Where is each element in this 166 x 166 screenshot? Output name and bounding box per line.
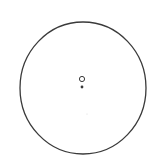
faint-dot xyxy=(86,113,87,114)
hollow-circle-marker xyxy=(79,76,84,81)
outer-circle xyxy=(20,22,146,154)
filled-center-dot xyxy=(81,86,84,89)
diagram-canvas xyxy=(0,0,166,166)
